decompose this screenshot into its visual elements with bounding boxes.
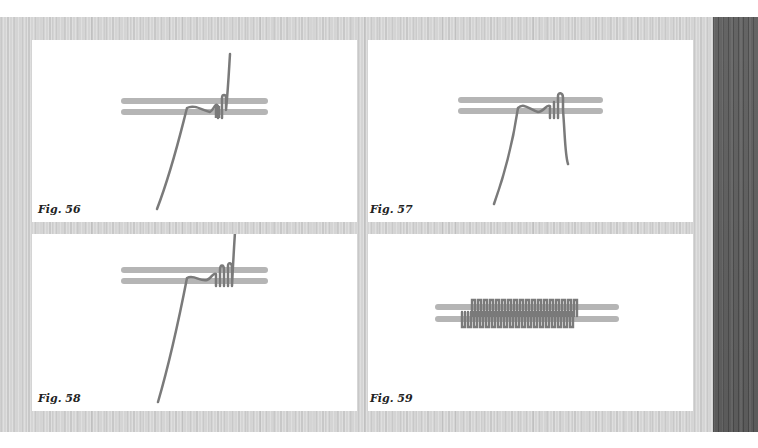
dark-wood-strip — [713, 17, 758, 432]
figure-58-panel: Fig. 58 — [32, 234, 357, 411]
figure-56-panel: Fig. 56 — [32, 40, 357, 222]
figure-label: Fig. 59 — [370, 392, 413, 405]
figure-label: Fig. 57 — [370, 203, 413, 216]
wire-wrap-illustration — [368, 40, 693, 222]
coil-illustration — [368, 234, 693, 411]
figure-label: Fig. 58 — [38, 392, 81, 405]
figure-label: Fig. 56 — [38, 203, 81, 216]
figure-59-panel: Fig. 59 — [368, 234, 693, 411]
wire-wrap-illustration — [32, 234, 357, 411]
figure-57-panel: Fig. 57 — [368, 40, 693, 222]
wire-wrap-illustration — [32, 40, 357, 222]
